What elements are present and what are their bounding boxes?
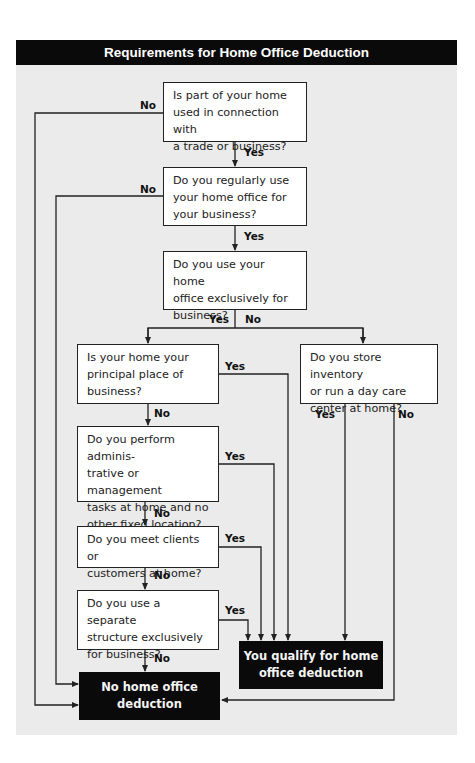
outcome-qualify: You qualify for home office deduction xyxy=(239,641,383,689)
label-q8-yes: Yes xyxy=(315,408,335,420)
label-q5-no: No xyxy=(154,507,170,519)
outcome-no-deduction: No home office deduction xyxy=(79,672,220,720)
label-q2-no: No xyxy=(140,183,156,195)
label-q2-yes: Yes xyxy=(244,230,264,242)
label-q8-no: No xyxy=(398,408,414,420)
label-q6-no: No xyxy=(154,569,170,581)
question-separate-structure: Do you use a separate structure exclusiv… xyxy=(77,590,219,650)
label-q3-no: No xyxy=(245,313,261,325)
question-administrative-tasks: Do you perform adminis- trative or manag… xyxy=(77,426,219,502)
question-principal-place: Is your home your principal place of bus… xyxy=(77,344,219,404)
label-q1-yes: Yes xyxy=(244,146,264,158)
label-q3-yes: Yes xyxy=(209,313,229,325)
question-exclusive-use: Do you use your home office exclusively … xyxy=(163,251,307,310)
label-q4-yes: Yes xyxy=(225,360,245,372)
label-q4-no: No xyxy=(154,407,170,419)
label-q5-yes: Yes xyxy=(225,450,245,462)
label-q7-yes: Yes xyxy=(225,604,245,616)
label-q1-no: No xyxy=(140,99,156,111)
question-regular-use: Do you regularly use your home office fo… xyxy=(163,167,307,226)
question-meet-clients: Do you meet clients or customers at home… xyxy=(77,526,219,568)
label-q7-no: No xyxy=(154,652,170,664)
label-q6-yes: Yes xyxy=(225,532,245,544)
question-trade-or-business: Is part of your home used in connection … xyxy=(163,82,307,142)
question-inventory-daycare: Do you store inventory or run a day care… xyxy=(300,344,438,404)
